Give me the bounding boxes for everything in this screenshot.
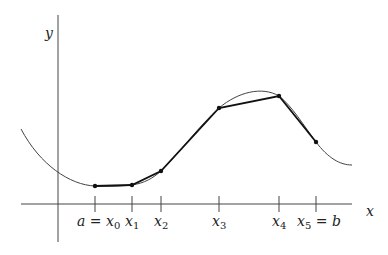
point-x1: [130, 183, 134, 187]
point-x0: [93, 184, 97, 188]
partition-points: [93, 94, 318, 188]
label-x2: x2: [154, 213, 168, 231]
point-x3: [217, 106, 221, 110]
label-x5: x5 = b: [297, 213, 341, 231]
approximation-polyline: [95, 96, 316, 186]
label-x4: x4: [272, 213, 286, 231]
point-x4: [277, 94, 281, 98]
y-axis-label: y: [44, 25, 54, 41]
diagram-canvas: y x a = x0 x1 x2 x3 x4 x5 = b: [0, 0, 388, 255]
x-axis-label: x: [366, 203, 374, 219]
label-x0: a = x0: [77, 213, 120, 231]
point-x2: [159, 169, 163, 173]
label-x1: x1: [125, 213, 139, 231]
function-curve: [21, 91, 352, 186]
label-x3: x3: [212, 213, 226, 231]
point-x5: [314, 140, 318, 144]
